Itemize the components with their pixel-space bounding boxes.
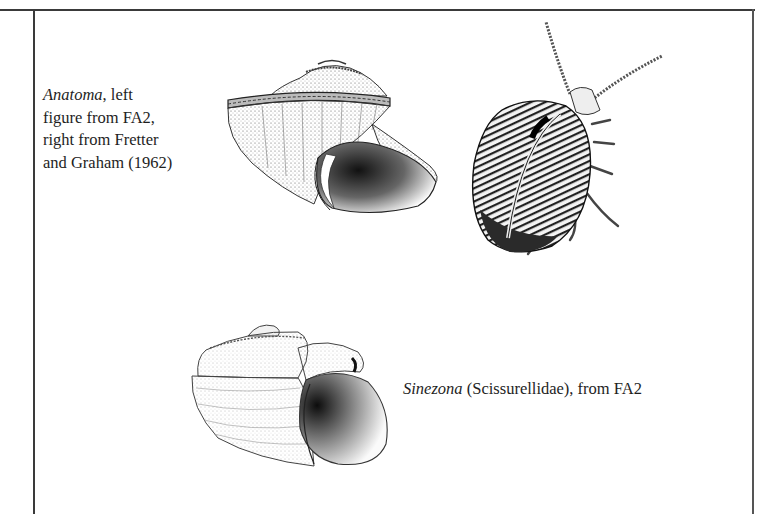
anatoma-caption-line-4: and Graham (1962) [43,153,172,172]
table-top-border [0,9,755,11]
anatoma-caption-line-3: right from Fretter [43,130,158,149]
anatoma-caption: Anatoma, left figure from FA2, right fro… [43,84,213,174]
table-right-border [752,9,754,514]
anatoma-caption-line-1: , left [103,85,133,104]
sinezona-caption-rest: (Scissurellidae), from FA2 [463,379,642,398]
table-left-border [33,9,35,514]
sinezona-caption: Sinezona (Scissurellidae), from FA2 [403,378,642,401]
anatoma-taxon-name: Anatoma [43,85,103,104]
anatoma-animal-drawing [462,14,672,259]
sinezona-shell-drawing [188,318,398,468]
sinezona-taxon-name: Sinezona [403,379,463,398]
anatoma-shell-drawing [222,58,452,218]
anatoma-caption-line-2: figure from FA2, [43,108,155,127]
